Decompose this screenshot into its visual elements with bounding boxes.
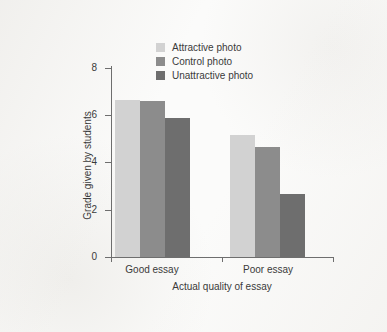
chart-figure: 8 6 4 2 0 Good essay Poor essay Actual q… [0, 0, 387, 332]
y-tick-mark-4 [105, 162, 111, 163]
chart-legend: Attractive photo Control photo Unattract… [156, 41, 253, 83]
x-tick-right-end [333, 257, 334, 262]
y-tick-mark-6 [105, 115, 111, 116]
legend-swatch-icon-unattractive [156, 71, 165, 80]
legend-label-control: Control photo [172, 56, 232, 67]
legend-label-unattractive: Unattractive photo [172, 70, 253, 81]
bar-poor-attractive [230, 135, 255, 257]
bar-good-attractive [115, 100, 140, 257]
legend-item-unattractive: Unattractive photo [156, 69, 253, 82]
y-tick-mark-2 [105, 210, 111, 211]
y-tick-mark-8 [105, 68, 111, 69]
x-tick-group-divider [222, 257, 223, 262]
bar-good-unattractive [165, 118, 190, 257]
legend-swatch-icon-control [156, 57, 165, 66]
legend-item-attractive: Attractive photo [156, 41, 253, 54]
x-axis-title: Actual quality of essay [111, 281, 333, 292]
bar-poor-control [255, 147, 280, 257]
bar-good-control [140, 101, 165, 257]
y-axis-line [111, 66, 112, 258]
y-axis-title: Grade given by students [82, 71, 93, 261]
legend-swatch-icon-attractive [156, 43, 165, 52]
x-axis-label-poor-essay: Poor essay [228, 264, 308, 276]
x-tick-left-end [111, 257, 112, 262]
legend-label-attractive: Attractive photo [172, 42, 241, 53]
legend-item-control: Control photo [156, 55, 253, 68]
x-axis-label-good-essay: Good essay [112, 264, 192, 276]
bar-poor-unattractive [280, 194, 305, 257]
